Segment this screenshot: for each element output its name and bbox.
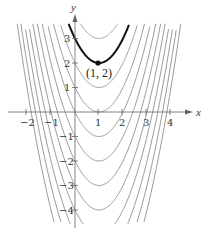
y-axis-arrow-icon	[73, 14, 78, 22]
y-tick-label: −2	[59, 156, 74, 167]
solution-curve	[80, 24, 117, 39]
slope-field-chart: x y −2 −1 1 2 3 4 3 2 1 −1 −2 −3 −4	[0, 0, 209, 233]
y-tick-label: −4	[59, 205, 74, 216]
highlight-point: (1, 2)	[86, 60, 112, 80]
x-axis-label: x	[195, 106, 201, 118]
x-tick-label: 1	[95, 117, 101, 128]
x-tick-label: −2	[20, 117, 35, 128]
x-axis-arrow-icon	[185, 110, 193, 115]
point-marker	[95, 60, 100, 65]
particular-solution-curve	[69, 24, 129, 63]
y-tick-label: −1	[59, 131, 74, 142]
y-tick-label: 3	[64, 33, 70, 44]
x-tick-label: 3	[143, 117, 149, 128]
point-label: (1, 2)	[86, 66, 112, 80]
x-tick-label: 4	[167, 117, 173, 128]
y-axis-label: y	[70, 1, 76, 13]
x-tick-label: 2	[119, 117, 125, 128]
y-tick-label: 2	[64, 58, 70, 69]
y-tick-label: 1	[64, 82, 70, 93]
x-tick-label: −1	[44, 117, 59, 128]
y-tick-label: −3	[59, 180, 74, 191]
